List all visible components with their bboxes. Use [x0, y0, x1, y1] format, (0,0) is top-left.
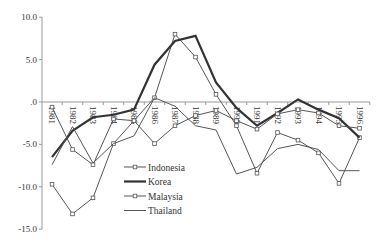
legend-label: Indonesia — [148, 163, 186, 173]
data-point-marker — [194, 55, 198, 59]
y-tick-label: 10.0 — [21, 12, 37, 22]
y-axis: 10.05.0.0-5.0-10.0-15.0 — [18, 12, 42, 234]
data-point-marker — [50, 105, 54, 109]
series-malaysia — [52, 110, 360, 214]
legend-label: Malaysia — [148, 192, 184, 202]
data-point-marker — [337, 124, 341, 128]
data-point-marker — [255, 171, 259, 175]
data-point-marker — [91, 196, 95, 200]
series-korea — [52, 36, 360, 157]
y-tick-label: -5.0 — [23, 139, 38, 149]
data-point-marker — [50, 182, 54, 186]
data-point-marker — [317, 111, 321, 115]
x-tick-label: 1987 — [170, 106, 180, 125]
x-tick-label: 1983 — [88, 106, 98, 125]
data-point-marker — [71, 148, 75, 152]
data-point-marker — [235, 119, 239, 123]
data-point-marker — [337, 182, 341, 186]
x-tick-label: 1982 — [68, 106, 78, 124]
line-chart: 10.05.0.0-5.0-10.0-15.0 1981198219831984… — [0, 0, 385, 245]
data-point-marker — [153, 142, 157, 146]
data-point-marker — [317, 151, 321, 155]
data-point-marker — [132, 119, 136, 123]
legend-label: Korea — [148, 177, 172, 187]
legend: IndonesiaKoreaMalaysiaThailand — [124, 163, 186, 217]
data-point-marker — [214, 93, 218, 97]
legend-marker — [133, 165, 137, 169]
legend-marker — [133, 194, 137, 198]
data-point-marker — [255, 127, 259, 131]
data-point-marker — [173, 124, 177, 128]
data-point-marker — [214, 109, 218, 113]
data-point-marker — [276, 131, 280, 135]
y-tick-label: -10.0 — [18, 182, 37, 192]
data-point-marker — [276, 112, 280, 116]
legend-label: Thailand — [148, 206, 182, 216]
data-point-marker — [296, 108, 300, 112]
series-lines — [50, 32, 361, 215]
x-tick-label: 1986 — [150, 106, 160, 125]
data-point-marker — [296, 138, 300, 142]
data-point-marker — [173, 32, 177, 36]
x-tick-label: 1996 — [355, 106, 365, 125]
y-tick-label: .0 — [30, 97, 37, 107]
data-point-marker — [194, 114, 198, 118]
data-point-marker — [235, 124, 239, 128]
y-tick-label: -15.0 — [18, 224, 37, 234]
y-tick-label: 5.0 — [26, 55, 38, 65]
data-point-marker — [71, 212, 75, 216]
data-point-marker — [358, 126, 362, 130]
data-point-marker — [112, 117, 116, 121]
